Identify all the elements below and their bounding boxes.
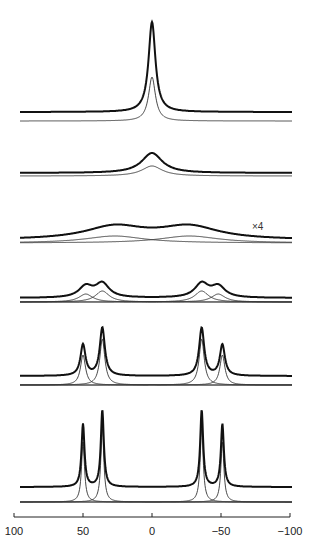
total-curve [20, 282, 292, 298]
component-curve [20, 429, 292, 502]
spectrum-6 [20, 410, 292, 502]
component-curve [20, 77, 292, 121]
component-curve [20, 339, 292, 385]
stacked-spectra-chart: 100500−50−100 ×4 [0, 0, 315, 552]
x-tick-label: 100 [5, 525, 23, 537]
component-curve [20, 339, 292, 385]
scale-annotation: ×4 [252, 221, 264, 232]
component-curve [20, 442, 292, 502]
x-axis: 100500−50−100 [5, 513, 303, 537]
component-curve [20, 429, 292, 502]
spectrum-5 [20, 327, 292, 385]
x-tick-label: 0 [149, 525, 155, 537]
spectrum-2 [20, 153, 292, 176]
x-tick-label: −100 [278, 525, 303, 537]
component-curve [20, 355, 292, 385]
spectrum-4 [20, 282, 292, 302]
total-curve [20, 327, 292, 376]
component-curve [20, 294, 292, 302]
x-tick-label: 50 [77, 525, 89, 537]
x-tick-label: −50 [212, 525, 231, 537]
component-curve [20, 236, 292, 243]
spectra-curves [20, 22, 292, 502]
component-curve [20, 355, 292, 385]
total-curve [20, 410, 292, 487]
total-curve [20, 153, 292, 173]
component-curve [20, 166, 292, 176]
spectrum-1 [20, 22, 292, 121]
component-curve [20, 442, 292, 502]
